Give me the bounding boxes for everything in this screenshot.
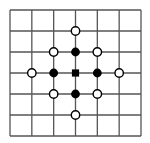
open-circle-icon: [28, 69, 36, 77]
filled-circle-icon: [71, 90, 80, 99]
open-circle-icon: [93, 48, 101, 56]
open-circle-icon: [93, 90, 101, 98]
open-circle-icon: [49, 90, 57, 98]
open-circle-icon: [49, 48, 57, 56]
open-circle-icon: [71, 111, 79, 119]
filled-circle-icon: [71, 48, 80, 57]
open-circle-icon: [71, 27, 79, 35]
filled-circle-icon: [49, 69, 58, 78]
center-marker: [72, 69, 79, 76]
open-circle-icon: [115, 69, 123, 77]
lattice-diagram: [0, 0, 150, 143]
filled-circle-icon: [93, 69, 102, 78]
center-square-icon: [72, 69, 79, 76]
